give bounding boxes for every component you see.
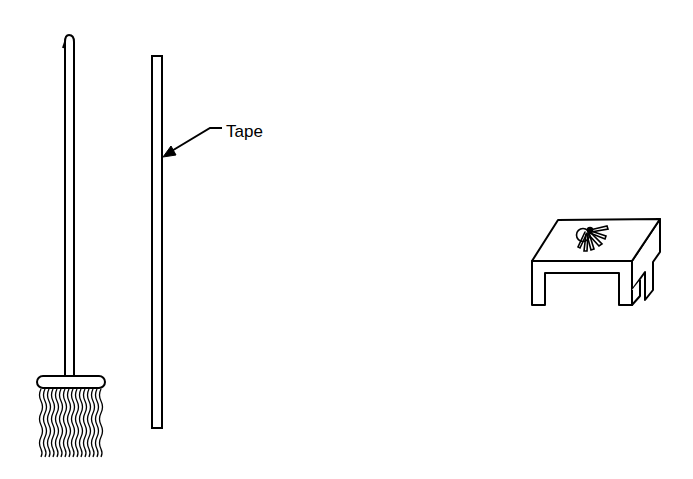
- mop-head-bar: [37, 376, 105, 388]
- table-front: [532, 261, 632, 305]
- stick: [152, 56, 162, 428]
- mop-handle: [65, 35, 74, 376]
- diagram-canvas: Tape: [0, 0, 693, 479]
- mop-strands: [40, 389, 103, 457]
- tape-label: Tape: [226, 122, 263, 141]
- arrow-head-icon: [163, 146, 176, 157]
- tape-callout: Tape: [163, 122, 263, 157]
- mop: [37, 35, 105, 457]
- tape-leader-line: [170, 128, 222, 152]
